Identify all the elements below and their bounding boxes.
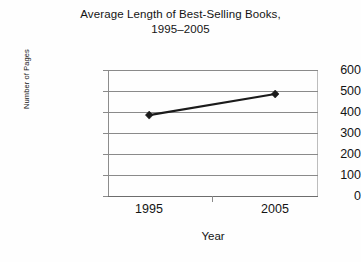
x-axis-title: Year [108, 230, 318, 242]
x-tick-label-1995: 1995 [114, 202, 184, 216]
x-axis-line [108, 196, 318, 197]
y-tick-label-100: 100 [315, 169, 361, 181]
data-point-marker-1995 [145, 111, 153, 119]
chart-title: Average Length of Best-Selling Books, 19… [0, 7, 361, 37]
chart-title-line-1: Average Length of Best-Selling Books, [80, 8, 280, 20]
chart-title-line-2: 1995–2005 [0, 22, 361, 37]
y-tick-label-0: 0 [315, 190, 361, 202]
series-line [149, 94, 275, 115]
plot-area [108, 70, 318, 196]
y-tick-label-200: 200 [315, 148, 361, 160]
series-average-length [108, 70, 318, 196]
x-tick-label-2005: 2005 [240, 202, 310, 216]
y-tick-label-400: 400 [315, 106, 361, 118]
y-tick-label-600: 600 [315, 64, 361, 76]
x-axis-center-tick [212, 196, 213, 202]
line-chart-figure: Average Length of Best-Selling Books, 19… [0, 0, 361, 262]
y-tick-label-300: 300 [315, 127, 361, 139]
data-point-marker-2005 [271, 90, 279, 98]
y-tick-label-500: 500 [315, 85, 361, 97]
y-axis-title: Number of Pages [22, 39, 31, 119]
